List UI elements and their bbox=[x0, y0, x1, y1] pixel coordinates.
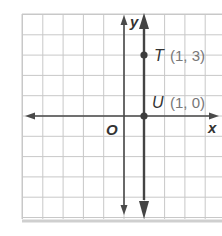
y-axis-label: y bbox=[129, 13, 139, 30]
coordinate-plane: y x O T (1, 3) U (1, 0) bbox=[0, 0, 222, 236]
origin-label: O bbox=[106, 121, 118, 138]
x-axis-left-arrow-icon bbox=[25, 113, 35, 120]
y-axis bbox=[121, 15, 128, 215]
point-u-coords: (1, 0) bbox=[170, 94, 205, 111]
line-down-arrow-icon bbox=[139, 201, 149, 219]
point-u bbox=[140, 112, 147, 119]
point-u-name: U bbox=[152, 94, 164, 111]
x-axis-label: x bbox=[207, 119, 217, 136]
y-axis-down-arrow-icon bbox=[121, 205, 128, 215]
x-axis bbox=[25, 113, 219, 120]
point-t-coords: (1, 3) bbox=[170, 47, 205, 64]
line-up-arrow-icon bbox=[139, 13, 149, 29]
y-axis-up-arrow-icon bbox=[121, 15, 128, 25]
point-t bbox=[140, 51, 147, 58]
point-t-name: T bbox=[154, 47, 165, 64]
